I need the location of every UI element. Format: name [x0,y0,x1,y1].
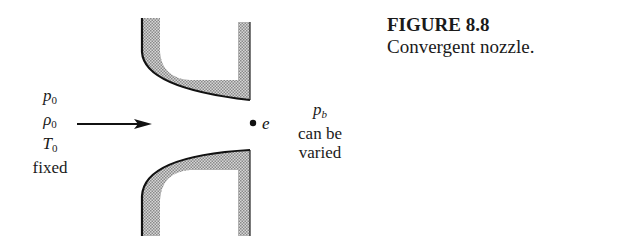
inlet-conditions-label: p0 ρ0 T0 fixed [20,86,80,177]
inlet-density: ρ0 [20,110,80,134]
inlet-temperature: T0 [20,134,80,158]
exit-label: e [262,114,270,134]
figure-number: FIGURE 8.8 [387,14,534,36]
back-pressure-note-1: can be [285,124,355,143]
back-pressure: pb [285,100,355,124]
figure-caption: FIGURE 8.8 Convergent nozzle. [387,14,534,58]
lower-nozzle-wall [142,150,250,236]
exit-point-dot [250,120,256,126]
back-pressure-label: pb can be varied [285,100,355,162]
upper-nozzle-wall [142,18,250,100]
figure-title: Convergent nozzle. [387,36,534,58]
flow-arrow-icon [77,119,152,129]
convergent-nozzle-figure: p0 ρ0 T0 fixed e pb can be varied FIGURE… [0,0,621,236]
inlet-note: fixed [20,158,80,177]
inlet-pressure: p0 [20,86,80,110]
back-pressure-note-2: varied [285,143,355,162]
